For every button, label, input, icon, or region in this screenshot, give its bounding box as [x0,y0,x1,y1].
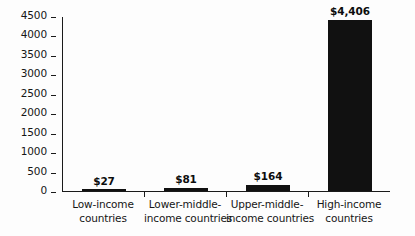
y-axis-tick-label: 0 [40,185,47,196]
bar[interactable] [246,185,290,191]
y-axis-tick-mark [51,17,56,18]
y-axis-tick-label: 4500 [21,10,47,21]
x-axis-labels: Low-incomecountriesLower-middle-income c… [62,198,390,232]
x-axis-category-label-line: income countries [144,212,226,226]
y-axis-tick-mark [51,192,56,193]
x-axis-category-label-line: High-income [308,198,390,212]
x-axis-category-label-line: Upper-middle- [226,198,308,212]
x-axis-category-label-line: countries [62,212,144,226]
x-axis-ticks [62,192,390,197]
x-axis-tick-mark [226,192,227,197]
y-axis-tick-label: 1000 [21,146,47,157]
x-axis-category-label: High-incomecountries [308,198,390,225]
x-axis-category-label-line: countries [308,212,390,226]
y-axis: 050010001500200025003000350040004500 [0,17,56,192]
bar-value-label: $164 [254,171,283,182]
y-axis-tick-mark [51,173,56,174]
bar[interactable] [328,20,372,191]
x-axis-category-label-line: Lower-middle- [144,198,226,212]
bar-chart: 050010001500200025003000350040004500 $27… [0,0,415,236]
x-axis-tick-mark [308,192,309,197]
bar-value-label: $81 [175,174,197,185]
x-axis-category-label-line: Low-income [62,198,144,212]
bar-group: $81 [145,17,227,191]
y-axis-tick-label: 1500 [21,127,47,138]
bar-group: $27 [63,17,145,191]
x-axis-category-label-line: income countries [226,212,308,226]
bar-value-label: $27 [93,176,115,187]
y-axis-tick-label: 500 [27,166,47,177]
x-axis-category-label: Lower-middle-income countries [144,198,226,225]
y-axis-tick-label: 3500 [21,49,47,60]
y-axis-tick-label: 3000 [21,68,47,79]
x-axis-category-label: Low-incomecountries [62,198,144,225]
x-axis-category-label: Upper-middle-income countries [226,198,308,225]
bar-group: $4,406 [309,17,391,191]
x-axis-tick-mark [144,192,145,197]
bar[interactable] [82,189,126,191]
bar[interactable] [164,188,208,191]
y-axis-tick-mark [51,95,56,96]
bar-group: $164 [227,17,309,191]
y-axis-tick-mark [51,36,56,37]
y-axis-tick-label: 2000 [21,107,47,118]
y-axis-tick-label: 4000 [21,29,47,40]
plot-area: $27$81$164$4,406 [62,17,390,192]
y-axis-tick-mark [51,75,56,76]
y-axis-tick-label: 2500 [21,88,47,99]
y-axis-tick-mark [51,153,56,154]
y-axis-tick-mark [51,114,56,115]
y-axis-tick-mark [51,56,56,57]
bar-value-label: $4,406 [330,6,370,17]
y-axis-tick-mark [51,134,56,135]
